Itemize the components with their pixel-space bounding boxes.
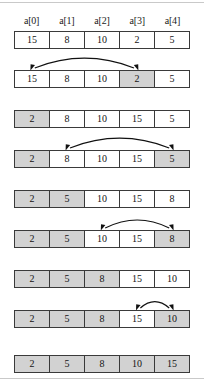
array-cell: 2 xyxy=(15,356,50,372)
array-cell: 15 xyxy=(120,111,155,127)
array-cell: 8 xyxy=(85,356,120,372)
row-after-swap-2: 2510158 xyxy=(14,190,190,208)
array-cell: 8 xyxy=(155,191,189,207)
row-after-swap-3: 2581510 xyxy=(14,270,190,288)
array-cell: 2 xyxy=(15,111,50,127)
array-cell: 5 xyxy=(50,231,85,247)
array-swap-figure: a[0]a[1]a[2]a[3]a[4] 1581025158102528101… xyxy=(0,0,204,384)
array-cell: 5 xyxy=(50,356,85,372)
swap-arrow-1-4 xyxy=(14,128,190,150)
array-index-label-2: a[2] xyxy=(84,14,119,28)
row-initial: 1581025 xyxy=(14,31,190,49)
array-cell: 15 xyxy=(120,151,155,167)
array-cell: 5 xyxy=(155,71,189,87)
array-cell: 5 xyxy=(155,32,189,48)
array-cell: 15 xyxy=(15,71,50,87)
array-cell: 10 xyxy=(155,271,189,287)
array-cell: 10 xyxy=(120,356,155,372)
array-cell: 2 xyxy=(15,191,50,207)
row-swap-0-3: 1581025 xyxy=(14,70,190,88)
array-cell: 15 xyxy=(155,356,189,372)
swap-arrow-0-3 xyxy=(14,48,190,70)
array-cell: 15 xyxy=(15,32,50,48)
array-cell: 10 xyxy=(85,32,120,48)
array-cell: 10 xyxy=(85,71,120,87)
array-cell: 5 xyxy=(50,191,85,207)
array-cell: 2 xyxy=(15,151,50,167)
row-swap-1-4: 2810155 xyxy=(14,150,190,168)
array-index-label-4: a[4] xyxy=(155,14,190,28)
array-cell: 5 xyxy=(50,271,85,287)
array-cell: 15 xyxy=(120,271,155,287)
array-cell: 10 xyxy=(85,191,120,207)
array-cell: 10 xyxy=(85,111,120,127)
array-cell: 8 xyxy=(50,71,85,87)
array-cell: 15 xyxy=(120,191,155,207)
array-cell: 8 xyxy=(155,231,189,247)
array-cell: 8 xyxy=(85,311,120,327)
array-cell: 5 xyxy=(155,111,189,127)
array-cell: 2 xyxy=(15,311,50,327)
array-cell: 10 xyxy=(85,151,120,167)
row-sorted: 2581015 xyxy=(14,355,190,373)
array-cell: 8 xyxy=(85,271,120,287)
array-cell: 5 xyxy=(50,311,85,327)
array-cell: 8 xyxy=(50,151,85,167)
row-after-swap-1: 2810155 xyxy=(14,110,190,128)
array-cell: 15 xyxy=(120,231,155,247)
array-cell: 2 xyxy=(120,71,155,87)
array-cell: 2 xyxy=(15,231,50,247)
array-cell: 8 xyxy=(50,32,85,48)
array-cell: 15 xyxy=(120,311,155,327)
array-cell: 5 xyxy=(155,151,189,167)
swap-arrow-2-4 xyxy=(14,208,190,230)
array-index-label-1: a[1] xyxy=(49,14,84,28)
top-rule xyxy=(0,2,204,3)
row-swap-3-4: 2581510 xyxy=(14,310,190,328)
row-swap-2-4: 2510158 xyxy=(14,230,190,248)
swap-arrow-3-4 xyxy=(14,288,190,310)
array-index-label-3: a[3] xyxy=(120,14,155,28)
array-cell: 8 xyxy=(50,111,85,127)
array-cell: 10 xyxy=(85,231,120,247)
bottom-rule xyxy=(0,378,204,379)
array-cell: 2 xyxy=(120,32,155,48)
array-index-label-0: a[0] xyxy=(14,14,49,28)
array-cell: 2 xyxy=(15,271,50,287)
array-cell: 10 xyxy=(155,311,189,327)
array-index-header: a[0]a[1]a[2]a[3]a[4] xyxy=(14,14,190,28)
